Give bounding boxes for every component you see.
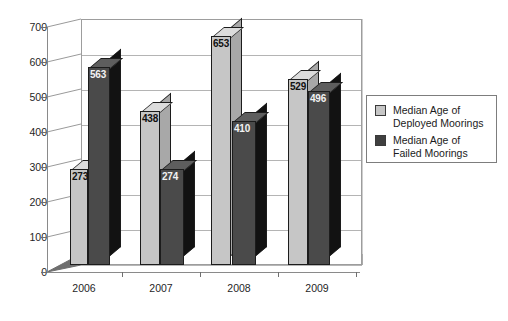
legend-item-failed: Median Age of Failed Moorings	[375, 134, 468, 160]
legend-label: Median Age of Failed Moorings	[393, 134, 468, 160]
bar-front-face	[232, 121, 256, 265]
y-tick-mark	[41, 167, 47, 168]
y-tick-mark	[41, 272, 47, 273]
bar-deployed-2007: 438	[140, 111, 160, 265]
dark-gray-swatch-icon	[375, 135, 386, 146]
y-tick-600: 600	[0, 57, 47, 67]
y-tick-mark	[41, 237, 47, 238]
bar-front-face	[140, 111, 160, 265]
bar-value-label: 563	[90, 70, 106, 80]
y-tick-300: 300	[0, 162, 47, 172]
x-axis-label-2007: 2007	[131, 283, 191, 294]
y-tick-mark	[41, 202, 47, 203]
y-tick-700: 700	[0, 22, 47, 32]
bar-front-face	[70, 169, 88, 265]
y-tick-mark	[41, 132, 47, 133]
bar-deployed-2009: 529	[288, 79, 308, 265]
legend-item-deployed: Median Age of Deployed Moorings	[375, 104, 483, 130]
bar-side-face	[330, 73, 341, 256]
bar-front-face	[88, 67, 110, 265]
bar-value-label: 273	[72, 172, 88, 182]
bar-front-face	[211, 36, 231, 265]
bar-value-label: 496	[310, 94, 326, 104]
light-gray-swatch-icon	[375, 105, 386, 116]
bar-front-face	[308, 91, 330, 265]
bar-value-label: 438	[142, 114, 158, 124]
bar-value-label: 274	[162, 172, 178, 182]
x-tick-2008	[278, 272, 279, 277]
x-axis-label-2006: 2006	[54, 283, 114, 294]
legend-label: Median Age of Deployed Moorings	[393, 104, 483, 130]
bar-failed-2009: 496	[308, 91, 330, 265]
bar-side-face	[110, 49, 121, 256]
bar-failed-2008: 410	[232, 121, 256, 265]
bar-value-label: 653	[213, 39, 229, 49]
bar-value-label: 410	[234, 124, 250, 134]
x-tick-2009	[356, 272, 357, 277]
bar-deployed-2008: 653	[211, 36, 231, 265]
bar-chart: 700 600 500 400 300 200 100 0 273	[0, 0, 508, 321]
chart-legend: Median Age of Deployed Moorings Median A…	[366, 95, 497, 163]
y-tick-mark	[41, 62, 47, 63]
y-tick-200: 200	[0, 197, 47, 207]
bar-deployed-2006: 273	[70, 169, 88, 265]
bar-side-face	[256, 103, 267, 256]
x-axis-label-2008: 2008	[209, 283, 269, 294]
y-tick-500: 500	[0, 92, 47, 102]
y-tick-400: 400	[0, 127, 47, 137]
x-tick-2007	[200, 272, 201, 277]
bar-failed-2006: 563	[88, 67, 110, 265]
x-axis-label-2009: 2009	[287, 283, 347, 294]
y-tick-100: 100	[0, 232, 47, 242]
bar-front-face	[288, 79, 308, 265]
y-tick-0: 0	[0, 267, 47, 277]
bar-value-label: 529	[290, 82, 306, 92]
x-axis-line	[47, 272, 360, 273]
bar-front-face	[160, 169, 184, 265]
y-tick-mark	[41, 97, 47, 98]
y-axis-line	[47, 27, 48, 272]
bar-failed-2007: 274	[160, 169, 184, 265]
y-tick-mark	[41, 27, 47, 28]
x-tick-2006	[122, 272, 123, 277]
